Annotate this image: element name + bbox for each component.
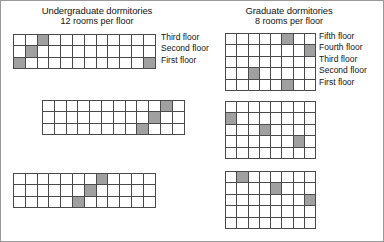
floor-label: Fourth floor: [319, 42, 367, 53]
room-cell-vacant: [294, 172, 305, 183]
room-cell-vacant: [249, 136, 260, 147]
room-cell-occupied: [149, 112, 161, 123]
room-cell-vacant: [67, 124, 79, 135]
room-cell-vacant: [61, 46, 73, 57]
room-cell-vacant: [137, 112, 149, 123]
room-cell-vacant: [249, 34, 260, 45]
room-cell-occupied: [14, 58, 26, 69]
room-cell-vacant: [271, 34, 282, 45]
room-cell-vacant: [282, 218, 293, 229]
room-cell-vacant: [305, 113, 316, 124]
room-cell-vacant: [120, 174, 132, 185]
room-cell-occupied: [85, 185, 97, 196]
room-cell-vacant: [305, 57, 316, 68]
room-cell-vacant: [126, 101, 138, 112]
room-cell-vacant: [260, 195, 271, 206]
room-cell-vacant: [271, 172, 282, 183]
room-cell-vacant: [173, 124, 185, 135]
room-cell-vacant: [78, 112, 90, 123]
room-cell-vacant: [226, 68, 237, 79]
room-cell-vacant: [260, 113, 271, 124]
room-cell-vacant: [226, 102, 237, 113]
room-cell-vacant: [26, 174, 38, 185]
graduate-title: Graduate dormitories: [193, 5, 384, 16]
room-cell-vacant: [144, 46, 156, 57]
room-cell-vacant: [108, 197, 120, 208]
room-cell-vacant: [114, 124, 126, 135]
room-cell-vacant: [282, 183, 293, 194]
room-cell-vacant: [294, 68, 305, 79]
graduate-building-1: [225, 33, 316, 91]
room-cell-vacant: [249, 218, 260, 229]
room-cell-vacant: [161, 124, 173, 135]
room-cell-vacant: [67, 101, 79, 112]
room-cell-vacant: [282, 195, 293, 206]
room-cell-occupied: [260, 125, 271, 136]
room-cell-vacant: [61, 185, 73, 196]
room-cell-vacant: [237, 148, 248, 159]
undergraduate-title: Undergraduate dormitories: [1, 5, 193, 16]
room-cell-vacant: [120, 35, 132, 46]
room-cell-vacant: [260, 183, 271, 194]
room-cell-vacant: [226, 34, 237, 45]
room-cell-vacant: [260, 45, 271, 56]
room-cell-vacant: [173, 101, 185, 112]
room-cell-vacant: [237, 206, 248, 217]
room-cell-vacant: [144, 35, 156, 46]
room-cell-vacant: [144, 197, 156, 208]
graduate-subtitle: 8 rooms per floor: [193, 16, 384, 27]
room-cell-vacant: [271, 80, 282, 91]
room-cell-vacant: [260, 148, 271, 159]
room-cell-vacant: [271, 102, 282, 113]
room-cell-vacant: [282, 125, 293, 136]
room-cell-vacant: [294, 206, 305, 217]
room-cell-vacant: [49, 185, 61, 196]
room-cell-vacant: [260, 218, 271, 229]
room-cell-vacant: [249, 45, 260, 56]
room-cell-vacant: [108, 46, 120, 57]
room-cell-vacant: [237, 183, 248, 194]
room-cell-occupied: [137, 124, 149, 135]
room-cell-vacant: [237, 68, 248, 79]
room-cell-vacant: [305, 136, 316, 147]
room-cell-occupied: [271, 183, 282, 194]
room-cell-vacant: [260, 136, 271, 147]
room-cell-vacant: [305, 148, 316, 159]
room-cell-vacant: [249, 172, 260, 183]
room-cell-vacant: [14, 174, 26, 185]
room-cell-vacant: [226, 148, 237, 159]
room-cell-vacant: [61, 197, 73, 208]
room-cell-occupied: [144, 58, 156, 69]
room-cell-vacant: [294, 102, 305, 113]
room-cell-vacant: [97, 197, 109, 208]
room-cell-vacant: [85, 58, 97, 69]
room-cell-vacant: [282, 102, 293, 113]
undergraduate-building-2-grid: [42, 100, 185, 135]
room-cell-vacant: [38, 58, 50, 69]
graduate-building-3: [225, 171, 316, 229]
room-cell-vacant: [108, 58, 120, 69]
room-cell-vacant: [237, 34, 248, 45]
room-cell-vacant: [260, 80, 271, 91]
room-cell-vacant: [249, 57, 260, 68]
graduate-building-1-grid: [225, 33, 316, 91]
graduate-building-3-grid: [225, 171, 316, 229]
graduate-heading: Graduate dormitories 8 rooms per floor: [193, 5, 384, 27]
undergraduate-building-1-grid: [13, 34, 156, 69]
room-cell-vacant: [132, 46, 144, 57]
undergraduate-panel: Undergraduate dormitories 12 rooms per f…: [1, 1, 193, 242]
room-cell-vacant: [14, 185, 26, 196]
room-cell-vacant: [226, 183, 237, 194]
room-cell-vacant: [260, 68, 271, 79]
room-cell-vacant: [90, 101, 102, 112]
room-cell-vacant: [102, 124, 114, 135]
room-cell-vacant: [132, 185, 144, 196]
room-cell-occupied: [237, 172, 248, 183]
room-cell-occupied: [97, 174, 109, 185]
room-cell-occupied: [294, 136, 305, 147]
room-cell-vacant: [49, 35, 61, 46]
undergraduate-building-3: [13, 173, 156, 208]
room-cell-vacant: [149, 101, 161, 112]
room-cell-vacant: [249, 113, 260, 124]
room-cell-vacant: [305, 172, 316, 183]
